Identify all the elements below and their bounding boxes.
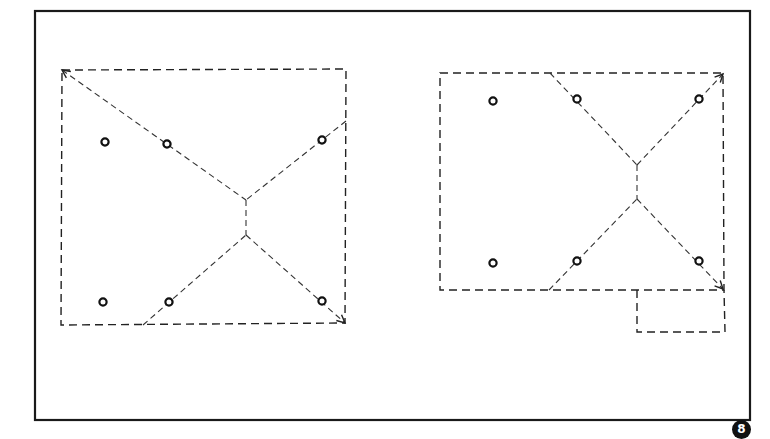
post-marker-icon [695,257,702,264]
plan-left [61,69,346,325]
ridge-line [549,199,637,290]
post-marker-icon [101,138,108,145]
ridge-line [637,199,723,289]
post-marker-icon [489,97,496,104]
post-marker-icon [573,95,580,102]
ridge-line [637,74,723,165]
ridge-line [62,70,246,200]
plan-right [440,73,725,332]
ridge-line [143,235,246,325]
ridge-line [550,73,637,165]
post-marker-icon [165,298,172,305]
post-marker-icon [163,140,170,147]
arrowhead-icon [62,70,71,78]
post-marker-icon [573,257,580,264]
post-marker-icon [318,297,325,304]
building-outline [61,69,346,325]
ridge-line [246,235,345,323]
post-marker-icon [695,95,702,102]
post-marker-icon [99,298,106,305]
figure-number-badge: 8 [732,420,751,439]
building-extension-outline [637,290,725,332]
building-outline [440,73,724,290]
plans-layer [61,69,725,332]
ridge-line [246,121,346,200]
post-marker-icon [489,259,496,266]
post-marker-icon [318,136,325,143]
